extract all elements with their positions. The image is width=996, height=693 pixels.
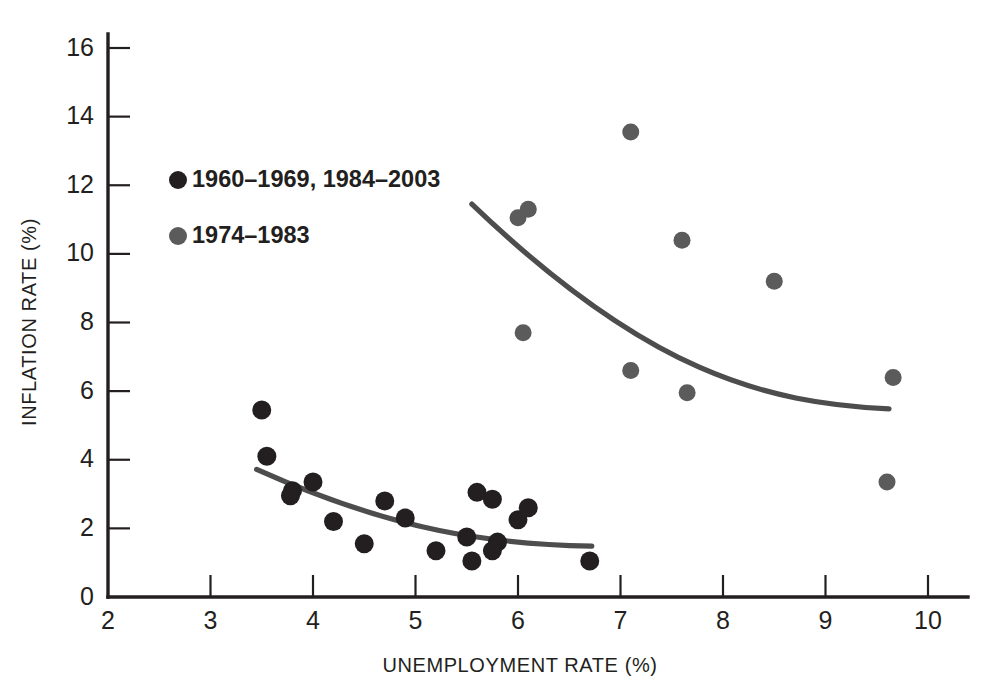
chart-figure: 0246810121416 2345678910 INFLATION RATE …	[0, 0, 996, 693]
data-point	[519, 498, 538, 517]
y-tick-label: 2	[80, 513, 94, 541]
x-tick-label: 8	[716, 606, 730, 634]
y-tick-label: 12	[66, 170, 94, 198]
x-axis-ticks: 2345678910	[101, 575, 942, 634]
data-point	[885, 369, 902, 386]
x-tick-label: 2	[101, 606, 115, 634]
legend-marker-gray	[169, 227, 187, 245]
data-point	[396, 509, 415, 528]
legend-label-dark: 1960–1969, 1984–2003	[192, 166, 440, 192]
data-point	[457, 527, 476, 546]
data-point	[622, 362, 639, 379]
y-tick-label: 0	[80, 582, 94, 610]
x-tick-label: 3	[204, 606, 218, 634]
data-point	[520, 201, 537, 218]
data-point	[580, 551, 599, 570]
data-point	[355, 534, 374, 553]
data-point	[252, 400, 271, 419]
data-point	[324, 512, 343, 531]
data-point	[483, 541, 502, 560]
x-tick-label: 4	[306, 606, 320, 634]
data-point	[257, 447, 276, 466]
y-tick-label: 16	[66, 33, 94, 61]
data-points-1974-1983	[510, 124, 902, 491]
axes	[108, 34, 968, 597]
data-point	[515, 324, 532, 341]
x-tick-label: 9	[819, 606, 833, 634]
y-axis-ticks: 0246810121416	[66, 33, 130, 610]
trend-lines	[257, 204, 889, 546]
data-point	[622, 124, 639, 141]
data-point	[427, 541, 446, 560]
legend-label-gray: 1974–1983	[192, 222, 310, 248]
y-tick-label: 4	[80, 444, 94, 472]
y-axis-title: INFLATION RATE (%)	[18, 218, 40, 426]
data-point	[483, 490, 502, 509]
x-tick-label: 7	[614, 606, 628, 634]
scatter-plot: 0246810121416 2345678910 INFLATION RATE …	[0, 0, 996, 693]
data-point	[674, 232, 691, 249]
data-point	[462, 551, 481, 570]
data-point	[879, 474, 896, 491]
x-tick-label: 10	[914, 606, 942, 634]
y-tick-label: 14	[66, 101, 94, 129]
legend: 1960–1969, 1984–2003 1974–1983	[169, 166, 440, 248]
data-point	[283, 481, 302, 500]
data-point	[766, 273, 783, 290]
y-tick-label: 8	[80, 307, 94, 335]
x-tick-label: 6	[511, 606, 525, 634]
legend-marker-dark	[169, 171, 187, 189]
data-point	[375, 491, 394, 510]
x-tick-label: 5	[409, 606, 423, 634]
data-point	[304, 473, 323, 492]
y-tick-label: 6	[80, 376, 94, 404]
y-tick-label: 10	[66, 238, 94, 266]
x-axis-title: UNEMPLOYMENT RATE (%)	[382, 654, 657, 676]
data-point	[679, 384, 696, 401]
